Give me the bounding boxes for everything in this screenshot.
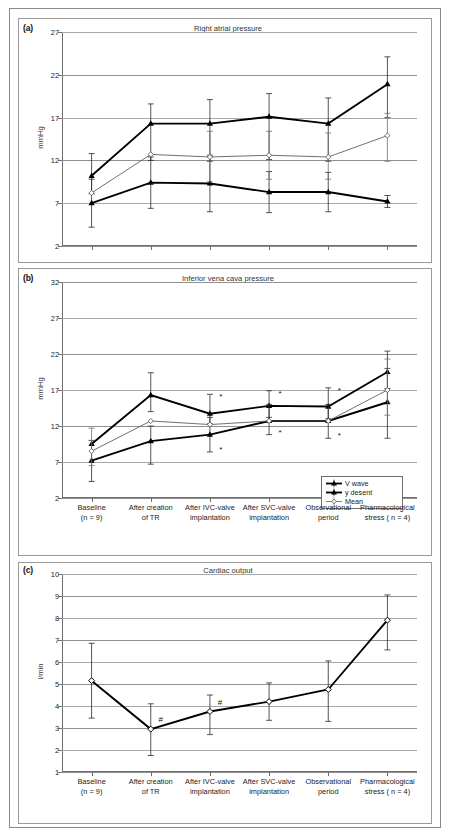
x-axis-label-line-1: Observational [297,503,360,513]
a-gridline [62,246,417,247]
b-data-point [148,392,154,398]
x-axis-label-line-1: Baseline [60,777,123,787]
panel-a-plot-area: 2712172227 [62,32,417,246]
b-x-tick-mark [92,498,93,502]
panel-a: (a) Right atrial pressure mmHg 271217222… [18,18,432,263]
c-gridline [62,772,417,773]
b-data-point-mean [89,449,94,454]
c-data-point [207,709,213,715]
x-axis-label-line-2: implantation [178,787,241,797]
b-series-line [92,390,388,451]
c-series-line [92,620,388,729]
c-series-layer [62,574,417,772]
a-series-layer [62,32,417,246]
c-significance-marker: # [218,699,222,707]
x-axis-category-label: After IVC-valveimplantation [178,777,241,797]
x-axis-label-line-1: Pharmacological [356,777,419,787]
x-axis-category-label: After creationof TR [119,777,182,797]
b-significance-marker: * [219,446,222,454]
x-axis-label-line-2: (n = 9) [60,787,123,797]
panel-b: (b) Inferior vena cava pressure mmHg 271… [18,268,432,556]
a-data-point-mean [326,154,331,159]
panel-a-y-axis-label: mmHg [36,118,45,158]
c-x-tick-mark [269,772,270,776]
b-significance-marker: * [338,387,341,395]
a-data-point-mean [266,153,271,158]
x-axis-label-line-1: Pharmacological [356,503,419,513]
x-axis-category-label: Baseline(n = 9) [60,503,123,523]
a-x-tick-mark [210,246,211,250]
panel-b-plot-area: 271217222732****** [62,282,417,498]
c-x-tick-mark [210,772,211,776]
c-x-tick-mark [151,772,152,776]
b-series-line [92,402,388,460]
c-significance-marker: # [159,716,163,724]
x-axis-category-label: After creationof TR [119,503,182,523]
b-error-bar [148,426,154,464]
a-series-line [92,84,388,176]
b-x-tick-mark [210,498,211,502]
x-axis-label-line-1: After creation [119,503,182,513]
legend-item: y desent [325,488,398,497]
b-data-point-mean [207,422,212,427]
b-significance-marker: * [338,432,341,440]
c-y-tick-mark [58,772,62,773]
x-axis-label-line-1: After SVC-valve [238,503,301,513]
a-y-tick-mark [58,246,62,247]
panel-c-y-axis-label: l/min [36,652,45,692]
legend-marker-icon [325,479,343,488]
b-x-tick-mark [151,498,152,502]
panel-b-y-axis-label: mmHg [36,369,45,409]
x-axis-label-line-2: period [297,787,360,797]
x-axis-label-line-1: After creation [119,777,182,787]
x-axis-label-line-2: (n = 9) [60,513,123,523]
c-data-point [266,699,272,705]
panel-c-tag: (c) [23,565,33,575]
b-series-line [92,372,388,444]
x-axis-label-line-2: of TR [119,513,182,523]
a-data-point-mean [385,133,390,138]
c-x-axis-line [62,771,417,772]
legend-marker-icon [325,488,343,497]
b-y-tick-mark [58,498,62,499]
a-data-point [384,81,390,87]
c-x-tick-mark [387,772,388,776]
a-data-point-mean [89,190,94,195]
panel-c-plot-area: 12345678910## [62,574,417,772]
x-axis-label-line-2: period [297,513,360,523]
x-axis-category-label: Baseline(n = 9) [60,777,123,797]
x-axis-label-line-1: Observational [297,777,360,787]
x-axis-label-line-1: After SVC-valve [238,777,301,787]
b-data-point-mean [148,418,153,423]
a-series-line [92,183,388,204]
x-axis-label-line-2: implantation [238,513,301,523]
x-axis-label-line-2: implantation [178,513,241,523]
x-axis-label-line-1: After IVC-valve [178,777,241,787]
a-series-line [92,136,388,193]
a-x-tick-mark [387,246,388,250]
x-axis-label-line-2: of TR [119,787,182,797]
b-significance-marker: * [279,390,282,398]
x-axis-category-label: Observationalperiod [297,503,360,523]
a-x-tick-mark [151,246,152,250]
x-axis-category-label: Pharmacologicalstress ( n = 4) [356,503,419,523]
x-axis-category-label: Observationalperiod [297,777,360,797]
b-x-tick-mark [269,498,270,502]
legend-item: V wave [325,479,398,488]
panel-c: (c) Cardiac output l/min 12345678910## B… [18,562,432,824]
panel-a-tag: (a) [23,23,33,33]
x-axis-label-line-2: stress ( n = 4) [356,787,419,797]
b-significance-marker: * [279,429,282,437]
b-series-layer [62,282,417,498]
a-error-bar [384,57,390,118]
a-x-tick-mark [92,246,93,250]
x-axis-label-line-2: stress ( n = 4) [356,513,419,523]
x-axis-category-label: Pharmacologicalstress ( n = 4) [356,777,419,797]
a-data-point-mean [148,152,153,157]
x-axis-label-line-1: Baseline [60,503,123,513]
x-axis-label-line-1: After IVC-valve [178,503,241,513]
a-x-tick-mark [269,246,270,250]
panel-b-tag: (b) [23,273,33,283]
figure-container: (a) Right atrial pressure mmHg 271217222… [0,0,457,840]
c-x-tick-mark [328,772,329,776]
